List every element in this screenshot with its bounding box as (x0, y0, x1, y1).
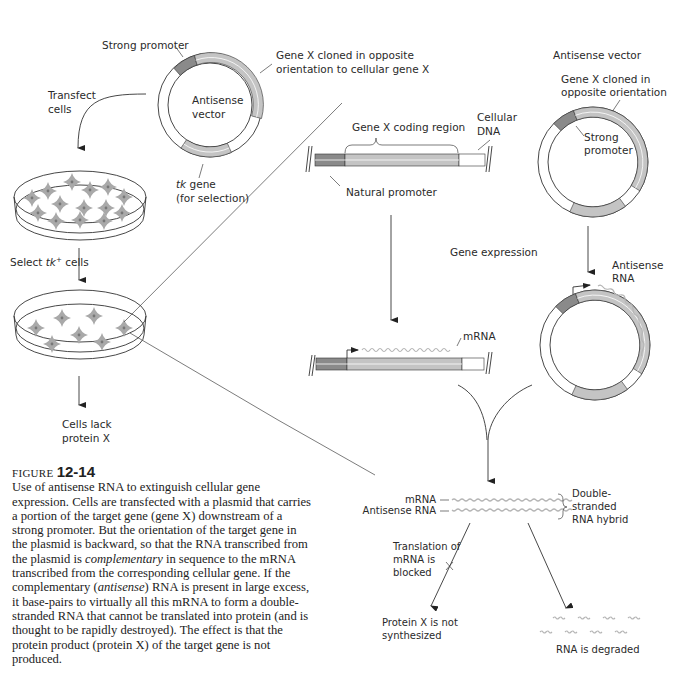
translation-label-2: mRNA is (393, 554, 435, 565)
hybrid-mrna-label: mRNA (405, 494, 436, 505)
strong-promoter-label: Strong promoter (102, 39, 189, 51)
cellular-dna-leader (478, 140, 490, 150)
petri-dish-transfected (14, 171, 146, 240)
figure-caption: FIGURE 12-14 Use of antisense RNA to ext… (12, 465, 312, 666)
caption-italic-complementary: complementary (85, 552, 163, 566)
tk-leader (199, 164, 203, 178)
protein-not-synthesized-label-2: synthesized (382, 630, 442, 641)
gene-x-cloned-label: Gene X cloned in opposite (276, 49, 414, 61)
zoom-line-bottom (130, 333, 278, 420)
transfect-label: Transfect (47, 89, 96, 101)
translation-label: Translation of (392, 541, 461, 552)
transfect-label-2: cells (48, 103, 72, 115)
left-antisense-plasmid: Antisense vector (158, 53, 263, 157)
cellular-dna-label: Cellular (477, 111, 518, 123)
tk-gene-label: tk gene (176, 178, 216, 190)
cloned-opposite-label-2: opposite orientation (561, 86, 667, 98)
cellular-dna-label-2: DNA (477, 125, 501, 137)
double-stranded-hybrid (452, 499, 572, 511)
figure-number: 12-14 (57, 463, 95, 480)
tk-gene-label-2: (for selection) (176, 192, 249, 204)
rna-degraded-label: RNA is degraded (556, 644, 640, 655)
gene-x-leader (260, 64, 272, 73)
cells-lack-label: Cells lack (62, 418, 113, 430)
hybrid-label-2: stranded (572, 501, 617, 512)
blocked-x-icon (446, 562, 453, 570)
converge-right (488, 385, 532, 440)
right-antisense-plasmid-top (538, 107, 648, 217)
cells-lack-label-2: protein X (62, 432, 110, 444)
hybrid-antisense-label: Antisense RNA (363, 505, 437, 516)
vector-label-2: vector (192, 108, 226, 120)
natural-promoter-leader (330, 176, 340, 186)
transfect-arrow (78, 94, 146, 148)
degraded-rna-fragments (540, 617, 640, 633)
converge-left (458, 385, 487, 440)
strong-promoter-right-label: Strong (584, 131, 619, 143)
caption-text: Use of antisense RNA to extinguish cellu… (12, 480, 312, 666)
mrna-leader (457, 338, 461, 346)
antisense-rna-label-2: RNA (612, 272, 635, 284)
cloned-leader (612, 100, 620, 112)
caption-italic-antisense: antisense (98, 580, 145, 594)
figure-heading: FIGURE 12-14 (12, 465, 312, 480)
natural-promoter-label: Natural promoter (346, 186, 437, 198)
gene-x-cloned-label-2: orientation to cellular gene X (276, 63, 429, 75)
select-tk-label: Select tk+ cells (10, 256, 89, 268)
mrna-label: mRNA (463, 330, 496, 342)
gene-expression-label: Gene expression (450, 246, 538, 258)
transcribed-gene-dna (309, 349, 492, 377)
cloned-opposite-label: Gene X cloned in (561, 73, 650, 85)
cellular-gene-dna (306, 146, 492, 172)
hybrid-label-3: RNA hybrid (572, 514, 628, 525)
vector-label: Antisense (192, 94, 243, 106)
degradation-arrow (528, 523, 566, 608)
antisense-vector-title: Antisense vector (553, 49, 642, 61)
coding-region-label: Gene X coding region (352, 121, 465, 133)
strong-promoter-right-label-2: promoter (584, 144, 633, 156)
hybrid-brace (558, 494, 567, 519)
translation-label-3: blocked (393, 567, 432, 578)
antisense-rna-label: Antisense (612, 259, 663, 271)
hybrid-label: Double- (572, 488, 611, 499)
coding-region-brace (345, 138, 458, 153)
right-antisense-plasmid-expressing (540, 285, 650, 400)
petri-dish-selected (14, 290, 146, 359)
figure-word: FIGURE (12, 467, 54, 479)
protein-not-synthesized-label: Protein X is not (382, 617, 458, 628)
